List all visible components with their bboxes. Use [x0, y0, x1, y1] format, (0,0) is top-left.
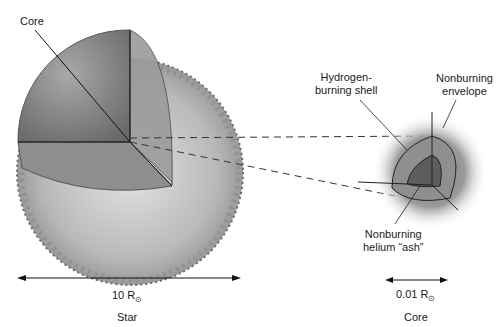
label-line: envelope [436, 85, 493, 98]
core-scale-label: 0.01 R⊙ [396, 288, 435, 305]
label-line: Hydrogen- [315, 71, 377, 84]
star-core-label: Core [20, 15, 44, 28]
label-line: burning shell [315, 84, 377, 97]
diagram-canvas [0, 0, 502, 327]
solar-radius-symbol: ⊙ [135, 295, 142, 304]
core-scale-value: 0.01 R [396, 288, 428, 300]
core-scale-arrow [385, 277, 448, 283]
label-line: Nonburning [436, 72, 493, 85]
solar-radius-symbol: ⊙ [428, 294, 435, 303]
star-sphere [17, 30, 243, 285]
label-line: helium “ash” [363, 241, 424, 254]
hydrogen-shell-label: Hydrogen- burning shell [315, 71, 377, 97]
star-scale-label: 10 R⊙ [112, 289, 142, 306]
label-line: Nonburning [363, 228, 424, 241]
helium-ash-label: Nonburning helium “ash” [363, 228, 424, 254]
core-detail [358, 100, 488, 230]
envelope-label: Nonburning envelope [436, 72, 493, 98]
star-caption: Star [117, 311, 137, 324]
star-scale-value: 10 R [112, 289, 135, 301]
core-caption: Core [404, 311, 428, 324]
